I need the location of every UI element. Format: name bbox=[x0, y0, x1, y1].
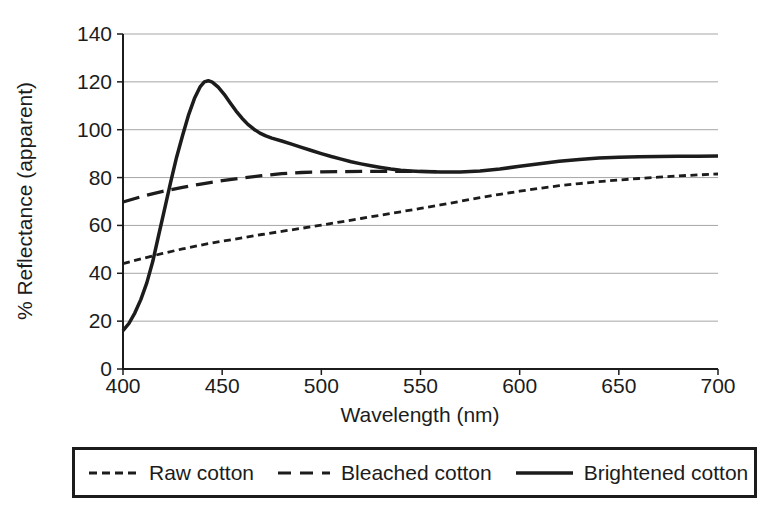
x-tick-label-400: 400 bbox=[105, 374, 140, 397]
brightened-cotton-line-swatch-icon bbox=[516, 469, 573, 477]
x-tick-label-500: 500 bbox=[304, 374, 339, 397]
y-axis-title: % Reflectance (apparent) bbox=[13, 82, 36, 320]
raw-cotton-line-swatch-icon bbox=[89, 469, 138, 477]
axes bbox=[117, 34, 718, 375]
series-lines bbox=[123, 81, 718, 331]
x-tick-label-650: 650 bbox=[601, 374, 636, 397]
legend-item-brightened-cotton: Brightened cotton bbox=[516, 462, 749, 483]
x-tick-label-550: 550 bbox=[403, 374, 438, 397]
y-tick-label-140: 140 bbox=[77, 22, 112, 45]
figure: 020406080100120140400450500550600650700 … bbox=[0, 0, 780, 526]
gridlines bbox=[123, 34, 718, 321]
legend-label-brightened-cotton: Brightened cotton bbox=[584, 462, 749, 483]
x-tick-label-700: 700 bbox=[700, 374, 735, 397]
y-tick-label-20: 20 bbox=[89, 309, 112, 332]
y-tick-label-120: 120 bbox=[77, 70, 112, 93]
y-tick-label-60: 60 bbox=[89, 213, 112, 236]
legend-label-bleached-cotton: Bleached cotton bbox=[341, 462, 492, 483]
bleached-cotton-line-swatch-icon bbox=[278, 469, 330, 477]
x-tick-label-600: 600 bbox=[502, 374, 537, 397]
legend-label-raw-cotton: Raw cotton bbox=[149, 462, 254, 483]
legend-item-bleached-cotton: Bleached cotton bbox=[278, 462, 492, 483]
x-tick-label-450: 450 bbox=[205, 374, 240, 397]
y-tick-label-80: 80 bbox=[89, 166, 112, 189]
y-tick-label-40: 40 bbox=[89, 261, 112, 284]
series-line-raw-cotton bbox=[123, 174, 718, 264]
series-line-brightened-cotton bbox=[123, 81, 718, 331]
legend-item-raw-cotton: Raw cotton bbox=[89, 462, 254, 483]
y-tick-label-100: 100 bbox=[77, 118, 112, 141]
legend: Raw cotton Bleached cotton Brightened co… bbox=[72, 447, 757, 498]
reflectance-chart: 020406080100120140400450500550600650700 … bbox=[0, 0, 780, 440]
x-axis-title: Wavelength (nm) bbox=[340, 403, 499, 426]
